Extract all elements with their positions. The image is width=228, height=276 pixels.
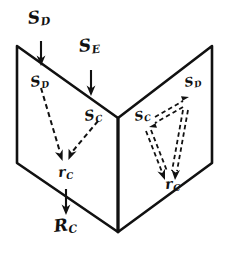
label-outer-se-sub: E — [91, 43, 101, 57]
arrow-right-sc-to-rc — [146, 131, 165, 180]
arrow-right-sd-to-sc — [149, 107, 183, 128]
arrow-right-sd-to-rc — [171, 110, 188, 180]
label-right-sd-sub: D — [194, 79, 203, 90]
figure-canvas: SD SE SD SC rC SD SC rC RC — [0, 0, 228, 276]
diagram-svg — [0, 0, 228, 276]
label-right-rc: rC — [164, 175, 180, 194]
label-outer-rc-base: R — [52, 214, 68, 236]
label-outer-se: SE — [78, 36, 101, 57]
arrow-right-rc-to-sd — [172, 110, 183, 171]
label-outer-rc-sub: C — [68, 222, 78, 236]
label-outer-sd-base: S — [26, 7, 41, 28]
arrow-right-sc-to-sd — [155, 96, 189, 117]
arrow-outer-se — [87, 70, 96, 96]
label-left-rc: rC — [57, 163, 73, 182]
label-right-rc-sub: C — [173, 182, 181, 193]
arrow-right-rc-to-sc — [151, 130, 167, 171]
label-left-sc-sub: C — [95, 113, 104, 124]
label-left-sd-sub: D — [41, 79, 50, 90]
label-right-sc: SC — [133, 105, 152, 124]
label-right-rc-base: r — [164, 175, 173, 192]
label-left-sc: SC — [83, 105, 103, 125]
arrow-left-sd-to-rc — [41, 88, 63, 161]
label-outer-sd: SD — [27, 7, 51, 29]
label-right-sd: SD — [183, 71, 202, 91]
label-outer-rc: RC — [53, 215, 78, 237]
label-left-rc-base: r — [57, 163, 66, 180]
arrow-left-sc-to-rc — [68, 121, 98, 160]
label-outer-se-base: S — [77, 35, 92, 56]
label-outer-sd-sub: D — [40, 14, 51, 28]
label-left-sd: SD — [29, 71, 50, 91]
label-left-rc-sub: C — [66, 170, 74, 181]
